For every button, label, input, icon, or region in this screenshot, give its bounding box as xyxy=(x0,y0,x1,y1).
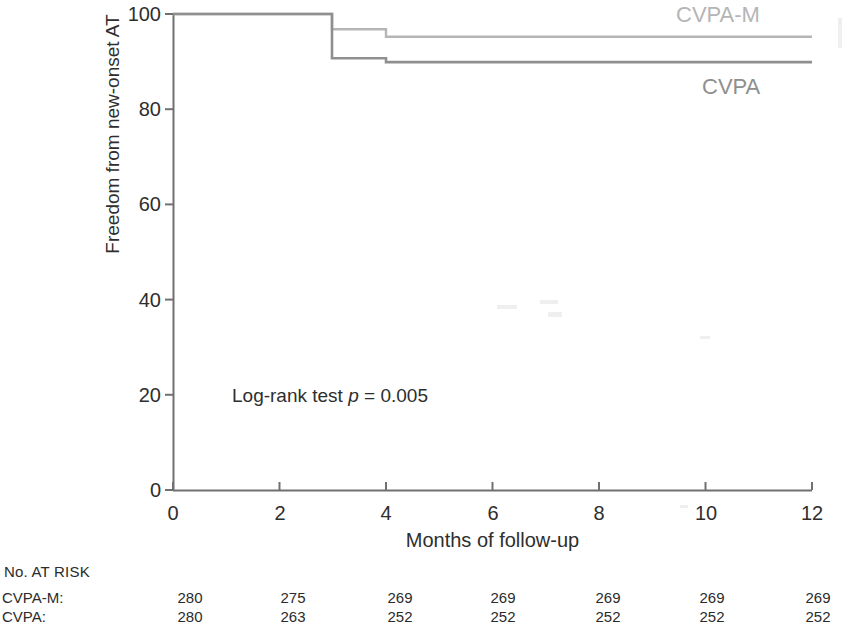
x-tick-label-0: 0 xyxy=(153,503,193,523)
x-tick-label-6: 6 xyxy=(473,503,513,523)
series-label-cvpam: CVPA-M xyxy=(676,2,760,28)
risk-cell-cvpa-12: 252 xyxy=(788,608,848,625)
risk-cell-cvpa-0: 280 xyxy=(160,608,220,625)
risk-cell-cvpam-6: 269 xyxy=(473,589,533,606)
x-axis-title: Months of follow-up xyxy=(173,529,812,552)
kaplan-meier-figure: 100 80 60 40 20 0 Freedom from new-onset… xyxy=(0,0,848,644)
x-tick-label-4: 4 xyxy=(366,503,406,523)
risk-cell-cvpa-8: 252 xyxy=(578,608,638,625)
x-tick-label-10: 10 xyxy=(686,503,726,523)
risk-cell-cvpa-6: 252 xyxy=(473,608,533,625)
risk-cell-cvpa-10: 252 xyxy=(682,608,742,625)
x-tick-label-2: 2 xyxy=(260,503,300,523)
risk-cell-cvpam-8: 269 xyxy=(578,589,638,606)
logrank-annotation: Log-rank test p = 0.005 xyxy=(232,385,428,407)
risk-cell-cvpam-12: 269 xyxy=(788,589,848,606)
risk-cell-cvpam-2: 275 xyxy=(263,589,323,606)
y-axis-title: Freedom from new-onset AT xyxy=(102,0,124,299)
y-tick-label-0: 0 xyxy=(113,480,161,500)
logrank-p-symbol: p xyxy=(348,385,359,406)
risk-cell-cvpam-0: 280 xyxy=(160,589,220,606)
y-tick-label-20: 20 xyxy=(113,385,161,405)
risk-cell-cvpa-4: 252 xyxy=(370,608,430,625)
x-tick-label-12: 12 xyxy=(792,503,832,523)
logrank-prefix: Log-rank test xyxy=(232,385,348,406)
series-label-cvpa: CVPA xyxy=(702,74,760,100)
risk-cell-cvpa-2: 263 xyxy=(263,608,323,625)
x-tick-label-8: 8 xyxy=(579,503,619,523)
risk-row-label-cvpam: CVPA-M: xyxy=(2,589,63,606)
risk-cell-cvpam-10: 269 xyxy=(682,589,742,606)
x-axis-ticks xyxy=(173,482,812,490)
logrank-suffix: = 0.005 xyxy=(359,385,428,406)
risk-row-label-cvpa: CVPA: xyxy=(2,608,46,625)
y-axis-ticks xyxy=(165,14,173,490)
risk-table-title: No. AT RISK xyxy=(4,563,90,580)
risk-cell-cvpam-4: 269 xyxy=(370,589,430,606)
